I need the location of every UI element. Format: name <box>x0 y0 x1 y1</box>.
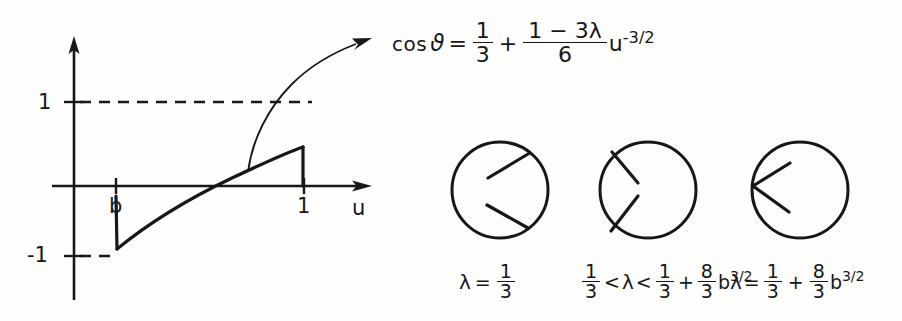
cos-theta-curve <box>117 147 303 249</box>
circle-case-2 <box>600 142 696 238</box>
equation-lambda-numerator: 1 − 3λ <box>523 20 606 42</box>
caption-1-lambda: λ <box>459 270 471 294</box>
caption-2-lower-relation: < <box>602 271 622 293</box>
axis-label-y-one: 1 <box>38 92 51 113</box>
circle-case-1 <box>452 142 548 238</box>
axis-label-x-one: 1 <box>297 196 310 217</box>
axis-label-x-b: b <box>109 196 122 217</box>
caption-3-plus: + <box>784 271 808 293</box>
caption-2-plus: + <box>676 271 696 293</box>
equation-u-exponent: -3/2 <box>623 28 655 47</box>
caption-3-coefficient-denominator: 3 <box>810 281 828 302</box>
equation-one-third-numerator: 1 <box>473 20 493 42</box>
caption-3-coefficient: 8 3 <box>810 262 828 302</box>
circle-case-1-caption: λ= 1 3 <box>459 262 517 302</box>
caption-3-relation: = <box>742 271 762 293</box>
graph-axes <box>52 36 372 300</box>
graph-curve <box>116 147 303 249</box>
equation-u-base: u <box>609 31 623 56</box>
equation-equals-sign: = <box>444 31 470 56</box>
caption-2-coefficient: 8 3 <box>698 262 716 302</box>
caption-3-term-one-numerator: 1 <box>764 262 782 281</box>
caption-3-term-one: 1 3 <box>764 262 782 302</box>
equation-one-third: 1 3 <box>473 20 493 67</box>
figure-canvas: 1 -1 b 1 u cosϑ= 1 3 + 1 − 3λ 6 u-3/2 λ=… <box>0 0 902 321</box>
circle-case-1-outline <box>452 142 548 238</box>
equation-theta-symbol: ϑ <box>427 30 444 56</box>
caption-2-upper-relation: < <box>634 271 654 293</box>
caption-2-coefficient-denominator: 3 <box>698 281 716 302</box>
axis-label-y-minus-one: -1 <box>27 245 48 266</box>
equation-one-third-denominator: 3 <box>473 42 493 66</box>
equation-plus-sign: + <box>495 31 521 56</box>
caption-2-upper-denominator: 3 <box>656 281 674 302</box>
caption-2-lower-denominator: 3 <box>582 281 600 302</box>
circle-case-1-ray-upper <box>488 154 528 178</box>
caption-1-relation: = <box>471 271 495 293</box>
circle-case-2-ray-lower <box>611 196 638 231</box>
caption-1-value: 1 3 <box>497 262 515 302</box>
caption-3-coefficient-numerator: 8 <box>810 262 828 281</box>
equation-lambda-denominator: 6 <box>523 42 606 66</box>
equation-lambda-fraction: 1 − 3λ 6 <box>523 20 606 67</box>
annotation-arrow <box>248 38 372 172</box>
axis-label-u: u <box>352 198 365 219</box>
circle-case-3-caption: λ= 1 3 + 8 3 b3/2 <box>730 262 865 302</box>
caption-2-lower-bound: 1 3 <box>582 262 600 302</box>
caption-2-lambda: λ <box>622 270 634 294</box>
caption-1-value-numerator: 1 <box>497 262 515 281</box>
circle-case-2-ray-upper <box>612 152 638 183</box>
circle-case-1-ray-lower <box>487 205 528 228</box>
caption-1-value-denominator: 3 <box>497 281 515 302</box>
caption-2-upper-bound: 1 3 <box>656 262 674 302</box>
caption-3-lambda: λ <box>730 270 742 294</box>
cos-theta-equation: cosϑ= 1 3 + 1 − 3λ 6 u-3/2 <box>392 20 655 67</box>
caption-3-term-one-denominator: 3 <box>764 281 782 302</box>
caption-2-coefficient-numerator: 8 <box>698 262 716 281</box>
caption-3-exponent: 3/2 <box>842 268 865 284</box>
circle-case-3-outline <box>752 142 848 238</box>
caption-2-lower-numerator: 1 <box>582 262 600 281</box>
equation-cos-word: cos <box>392 32 427 56</box>
caption-3-base: b <box>830 271 842 293</box>
circle-case-2-caption: 1 3 <λ< 1 3 + 8 3 b3/2 <box>580 262 753 302</box>
circle-case-3 <box>752 142 848 238</box>
caption-2-upper-numerator: 1 <box>656 262 674 281</box>
circle-case-3-ray-lower <box>753 186 789 212</box>
caption-2-base: b <box>718 271 730 293</box>
